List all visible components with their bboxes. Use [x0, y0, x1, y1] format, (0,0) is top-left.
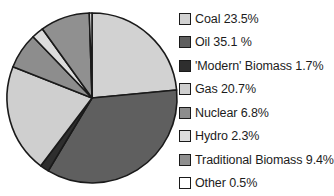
legend-swatch [179, 107, 191, 119]
legend-swatch [179, 36, 191, 48]
legend-label: Gas 20.7% [195, 82, 256, 96]
legend-label: Hydro 2.3% [195, 129, 259, 143]
legend-swatch [179, 177, 191, 189]
legend: Coal 23.5% Oil 35.1 % 'Modern' Biomass 1… [179, 7, 330, 195]
legend-item-oil: Oil 35.1 % [179, 31, 330, 55]
legend-swatch [179, 83, 191, 95]
legend-label: Other 0.5% [195, 176, 257, 190]
legend-item-hydro: Hydro 2.3% [179, 125, 330, 149]
legend-label: Coal 23.5% [195, 12, 259, 26]
legend-swatch [179, 130, 191, 142]
legend-label: Nuclear 6.8% [195, 106, 269, 120]
legend-item-other: Other 0.5% [179, 172, 330, 196]
legend-label: Oil 35.1 % [195, 35, 252, 49]
legend-swatch [179, 13, 191, 25]
legend-label: 'Modern' Biomass 1.7% [195, 59, 323, 73]
legend-item-modern-biomass: 'Modern' Biomass 1.7% [179, 54, 330, 78]
pie-chart [0, 0, 184, 192]
legend-item-nuclear: Nuclear 6.8% [179, 101, 330, 125]
legend-item-traditional-biomass: Traditional Biomass 9.4% [179, 148, 330, 172]
legend-swatch [179, 154, 191, 166]
legend-swatch [179, 60, 191, 72]
legend-item-coal: Coal 23.5% [179, 7, 330, 31]
legend-item-gas: Gas 20.7% [179, 78, 330, 102]
pie-slice-coal [92, 13, 177, 98]
legend-label: Traditional Biomass 9.4% [195, 153, 334, 167]
